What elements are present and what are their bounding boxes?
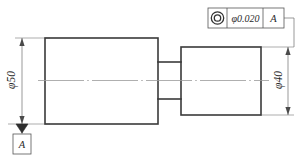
dimension-label-diameter-50: φ50 <box>2 58 20 102</box>
engineering-drawing-canvas: φ0.020 A A φ50 φ40 <box>0 0 302 162</box>
fcf-leader-line <box>284 18 294 47</box>
small-cylinder-body <box>181 47 261 115</box>
fcf-datum-reference: A <box>263 10 284 27</box>
dimension-diameter-50 <box>19 38 24 124</box>
datum-feature-indicator <box>16 124 28 134</box>
datum-feature-label: A <box>13 135 31 153</box>
fcf-tolerance-value: φ0.020 <box>228 10 263 27</box>
extension-lines <box>8 38 294 124</box>
dimension-label-diameter-40: φ40 <box>269 58 287 102</box>
large-cylinder-body <box>45 38 158 124</box>
